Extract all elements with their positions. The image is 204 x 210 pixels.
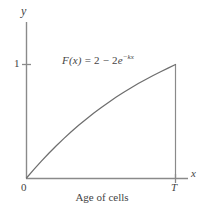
figure-canvas bbox=[0, 0, 204, 210]
y-axis-tick-label-one: 1 bbox=[14, 58, 20, 69]
y-axis-label: y bbox=[21, 5, 26, 17]
formula-constant-term: 2 bbox=[94, 54, 103, 66]
formula-coefficient: 2 bbox=[109, 54, 118, 66]
formula-equals: = bbox=[82, 54, 94, 66]
curve-formula-annotation: F(x) = 2 − 2e−kx bbox=[62, 54, 134, 66]
distribution-curve bbox=[27, 65, 176, 179]
cell-age-distribution-figure: y x 1 0 T F(x) = 2 − 2e−kx Age of cells bbox=[0, 0, 204, 210]
formula-exponent: −kx bbox=[123, 53, 134, 61]
formula-function-name: F(x) bbox=[62, 54, 82, 66]
x-axis-label: x bbox=[191, 168, 196, 179]
figure-caption: Age of cells bbox=[0, 192, 204, 203]
